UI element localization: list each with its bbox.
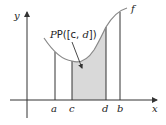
region-label: PP([c, d]): [49, 29, 97, 40]
tick-label-d: d: [102, 103, 108, 114]
tick-label-c: c: [69, 103, 75, 114]
tick-label-b: b: [117, 103, 123, 114]
area-under-curve-diagram: y x f PP([c, d]) a c d b: [0, 0, 166, 125]
y-axis-label: y: [13, 10, 20, 21]
function-label-f: f: [130, 3, 137, 14]
x-axis-label: x: [152, 103, 158, 114]
tick-label-a: a: [51, 103, 57, 114]
